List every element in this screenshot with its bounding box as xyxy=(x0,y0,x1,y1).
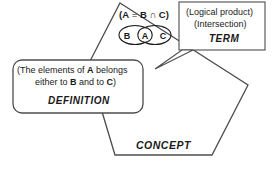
definition-line1-prefix: (The elements of xyxy=(17,65,87,75)
venn-label-a: A xyxy=(139,31,151,41)
definition-line2-middle: and to xyxy=(77,77,107,87)
term-intersection-text: (Intersection) xyxy=(194,19,247,29)
diagram-canvas: (A = B ∩ C) B A C (Logical product) (Int… xyxy=(0,0,277,170)
definition-line2-prefix: either to xyxy=(35,77,70,87)
venn-label-c: C xyxy=(157,31,169,41)
formula-close-paren: ) xyxy=(166,9,169,20)
set-formula: (A = B ∩ C) xyxy=(119,9,169,20)
definition-line2-suffix: ) xyxy=(113,77,116,87)
term-logical-product-text: (Logical product) xyxy=(186,7,253,17)
definition-label: DEFINITION xyxy=(48,95,110,106)
term-callout-tail xyxy=(155,50,193,69)
formula-equals: = xyxy=(129,9,140,20)
definition-line1-suffix: belongs xyxy=(94,65,128,75)
concept-label: CONCEPT xyxy=(136,139,191,151)
definition-text-line2: either to B and to C) xyxy=(35,77,116,87)
definition-text-line1: (The elements of A belongs xyxy=(17,65,128,75)
formula-intersection-operator: ∩ xyxy=(147,9,159,20)
venn-label-b: B xyxy=(121,31,133,41)
formula-set-c: C xyxy=(159,9,166,20)
formula-set-b: B xyxy=(140,9,147,20)
term-label: TERM xyxy=(209,33,239,44)
